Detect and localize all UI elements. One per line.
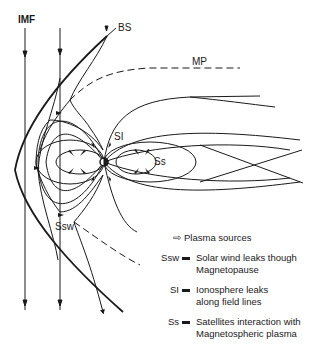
legend-text: Ionosphere leaks along field lines (196, 284, 318, 308)
dash-icon (182, 289, 190, 292)
legend-key: Ss (168, 316, 179, 327)
legend-text: Plasma sources (184, 232, 318, 244)
legend-item-plasma-sources: ⇨ Plasma sources (152, 232, 318, 244)
dash-icon (182, 257, 190, 260)
ssw-label: Ssw (55, 222, 74, 232)
legend: ⇨ Plasma sources Ssw Solar wind leaks th… (152, 232, 318, 348)
legend-key: Ssw (161, 252, 179, 263)
legend-text: Satellites interaction with Magnetospher… (196, 316, 318, 340)
plasma-source-arrows (34, 111, 150, 217)
legend-item-ss: Ss Satellites interaction with Magnetosp… (152, 316, 318, 340)
legend-key: SI (170, 284, 179, 295)
dipole-field-lines (36, 96, 303, 232)
imf-label: IMF (18, 15, 35, 25)
dash-icon (182, 321, 190, 324)
plasma-source-symbol-icon: ⇨ (173, 232, 181, 244)
si-label: SI (114, 132, 123, 142)
ss-label: Ss (154, 157, 166, 167)
magnetopause-dashed (70, 68, 240, 100)
legend-text: Solar wind leaks though Magnetopause (196, 252, 318, 276)
legend-item-si: SI Ionosphere leaks along field lines (152, 284, 318, 308)
magnetopause-label: MP (192, 57, 207, 67)
legend-item-ssw: Ssw Solar wind leaks though Magnetopause (152, 252, 318, 276)
imf-field-lines (23, 28, 62, 310)
bow-shock-label: BS (118, 23, 131, 33)
